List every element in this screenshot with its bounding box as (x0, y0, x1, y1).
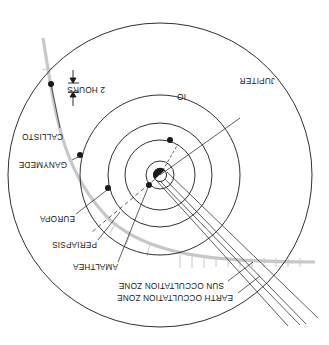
ganymede-label: GANYMEDE (18, 160, 67, 169)
sun-occultation-zone-label: SUN OCCULTATION ZONE (118, 281, 224, 290)
diagram-canvas: 2 HOURS JUPITER IO CALLISTO GANYMEDE EUR… (0, 0, 329, 345)
periapsis-label: PERIAPSIS (52, 240, 97, 249)
callisto-label: CALLISTO (22, 132, 63, 141)
amalthea-label: AMALTHEA (73, 262, 118, 271)
io-dot (167, 137, 173, 143)
io-label: IO (177, 92, 186, 101)
europa-label: EUROPA (39, 214, 75, 223)
earth-occultation-zone-label: EARTH OCCULTATION ZONE (117, 293, 233, 302)
jupiter-disk (153, 168, 166, 182)
europa-dot (105, 185, 111, 191)
jupiter-label: JUPITER (239, 76, 275, 85)
two-hours-label: 2 HOURS (67, 85, 105, 94)
jupiter-orbit-diagram: 2 HOURS JUPITER IO CALLISTO GANYMEDE EUR… (0, 0, 329, 345)
